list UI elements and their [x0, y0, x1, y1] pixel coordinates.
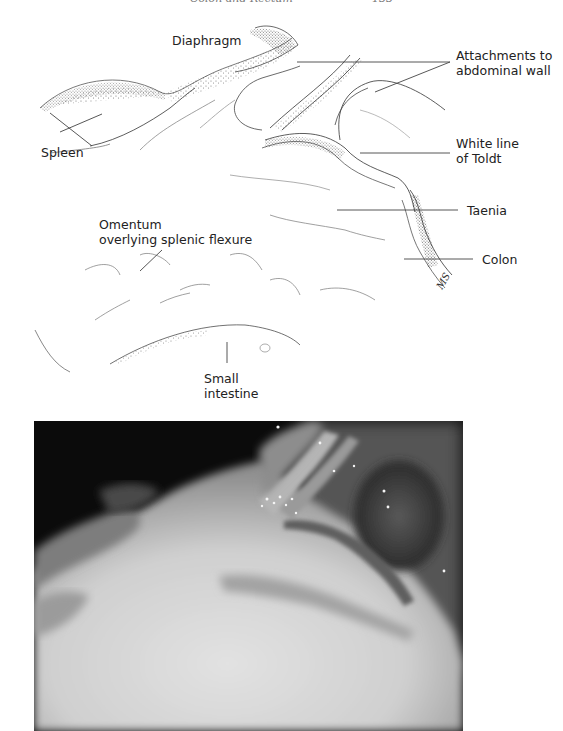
- spleen-diaphragm-drawing: [40, 26, 300, 153]
- label-taenia: Taenia: [467, 203, 507, 218]
- label-omentum: Omentum overlying splenic flexure: [99, 217, 252, 247]
- omentum-drawing: [35, 253, 375, 372]
- label-colon: Colon: [482, 252, 517, 267]
- label-attachments-to-abdominal-wall: Attachments to abdominal wall: [456, 48, 552, 78]
- colon-drawing: [230, 55, 452, 288]
- label-diaphragm: Diaphragm: [172, 33, 242, 48]
- laparoscopic-photo: [34, 421, 463, 731]
- artist-signature: MS: [434, 271, 453, 292]
- label-small-intestine: Small intestine: [204, 371, 259, 401]
- label-white-line-of-toldt: White line of Toldt: [456, 136, 519, 166]
- leader-lines: [50, 62, 473, 363]
- anatomical-illustration: MS Diaphragm Spleen Attachments to abdom…: [0, 0, 563, 405]
- label-spleen: Spleen: [41, 145, 84, 160]
